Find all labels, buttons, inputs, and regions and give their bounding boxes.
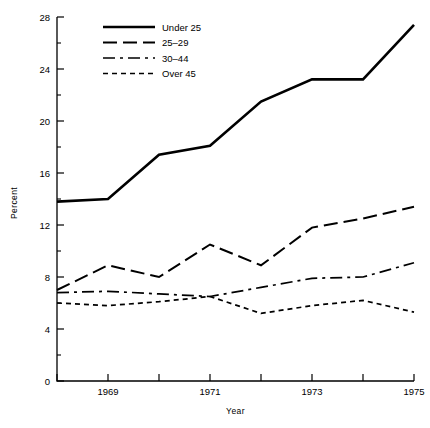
- legend-label-over-45: Over 45: [162, 68, 196, 79]
- series-line-over-45: [57, 297, 414, 314]
- y-axis-title: Percent: [9, 187, 19, 219]
- x-tick-label: 1971: [199, 386, 220, 397]
- legend-label-25-29: 25–29: [162, 37, 188, 48]
- axis-tick-labels: 04812162024281969197119731975: [39, 12, 424, 398]
- y-tick-label: 28: [39, 12, 50, 23]
- y-tick-label: 20: [39, 116, 50, 127]
- y-tick-label: 16: [39, 168, 50, 179]
- x-axis-title: Year: [226, 406, 245, 416]
- axes: [57, 17, 414, 381]
- data-series: [57, 25, 414, 314]
- y-tick-label: 24: [39, 64, 50, 75]
- axis-ticks: [57, 17, 414, 381]
- series-line-30-44: [57, 263, 414, 297]
- line-chart: 04812162024281969197119731975 Under 2525…: [0, 0, 430, 428]
- y-tick-label: 0: [45, 376, 50, 387]
- chart-legend: Under 2525–2930–44Over 45: [103, 22, 201, 80]
- y-tick-label: 8: [45, 272, 50, 283]
- y-tick-label: 4: [45, 324, 50, 335]
- x-tick-label: 1975: [403, 386, 424, 397]
- legend-label-under-25: Under 25: [162, 22, 201, 33]
- x-tick-label: 1973: [301, 386, 322, 397]
- series-line-under-25: [57, 25, 414, 202]
- chart-canvas: 04812162024281969197119731975 Under 2525…: [0, 0, 430, 428]
- x-tick-label: 1969: [97, 386, 118, 397]
- y-tick-label: 12: [39, 220, 50, 231]
- axis-lines: [57, 17, 414, 381]
- legend-label-30-44: 30–44: [162, 53, 188, 64]
